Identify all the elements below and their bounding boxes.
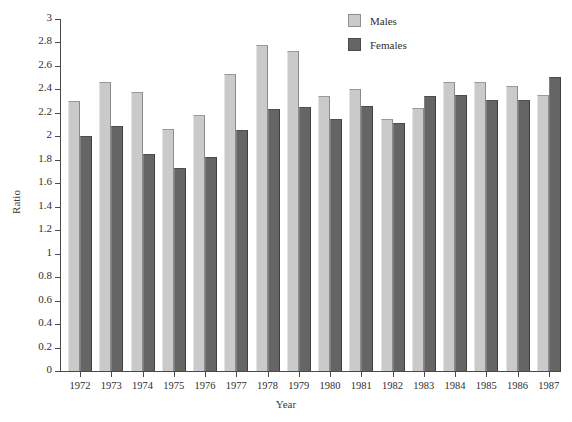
- y-tick-label: 1.4: [38, 199, 52, 211]
- x-tick: [268, 371, 269, 377]
- y-tick: 2.4: [55, 89, 60, 90]
- bar-males-1981: [349, 89, 361, 371]
- x-tick: [80, 371, 81, 377]
- y-tick: 2.8: [55, 42, 60, 43]
- bar-females-1983: [424, 96, 436, 371]
- bar-males-1972: [68, 101, 80, 371]
- bar-females-1976: [205, 157, 217, 371]
- legend-label-females: Females: [370, 39, 407, 51]
- y-tick: 0.2: [55, 348, 60, 349]
- bar-males-1978: [256, 45, 268, 371]
- bar-males-1987: [537, 95, 549, 371]
- bar-males-1986: [506, 86, 518, 371]
- bar-females-1987: [549, 77, 561, 372]
- legend-swatch-females-icon: [348, 38, 361, 51]
- bar-males-1980: [318, 96, 330, 371]
- bar-females-1979: [299, 107, 311, 371]
- bar-males-1976: [193, 115, 205, 371]
- y-axis-line: [60, 19, 61, 372]
- bar-males-1979: [287, 51, 299, 371]
- y-tick: 2.6: [55, 66, 60, 67]
- y-tick: 1: [55, 254, 60, 255]
- legend-swatch-males-icon: [348, 14, 361, 27]
- y-tick: 1.6: [55, 183, 60, 184]
- x-axis-label: Year: [0, 398, 572, 410]
- y-tick-label: 1.2: [38, 222, 52, 234]
- x-tick: [518, 371, 519, 377]
- y-tick: 0.8: [55, 277, 60, 278]
- x-tick: [424, 371, 425, 377]
- x-tick: [393, 371, 394, 377]
- bar-males-1983: [412, 108, 424, 371]
- bar-females-1981: [361, 106, 373, 371]
- chart-legend: Males Females: [348, 14, 407, 62]
- x-tick: [143, 371, 144, 377]
- y-tick: 1.2: [55, 230, 60, 231]
- bar-chart: Ratio 00.20.40.60.811.21.41.61.822.22.42…: [0, 0, 572, 422]
- plot-area: 00.20.40.60.811.21.41.61.822.22.42.62.83…: [60, 19, 560, 371]
- x-tick: [549, 371, 550, 377]
- y-tick: 0: [55, 371, 60, 372]
- y-tick: 1.4: [55, 207, 60, 208]
- y-tick-label: 0.6: [38, 293, 52, 305]
- bar-females-1975: [174, 168, 186, 371]
- bar-males-1973: [99, 82, 111, 371]
- x-tick: [455, 371, 456, 377]
- y-tick: 1.8: [55, 160, 60, 161]
- x-tick-label: 1987: [529, 380, 569, 391]
- bar-females-1982: [393, 123, 405, 371]
- y-tick-label: 2.2: [38, 105, 52, 117]
- y-tick-label: 0.8: [38, 269, 52, 281]
- y-tick: 2.2: [55, 113, 60, 114]
- bar-females-1974: [143, 154, 155, 371]
- y-tick: 0.4: [55, 324, 60, 325]
- legend-label-males: Males: [370, 15, 397, 27]
- y-tick-label: 3: [47, 11, 53, 23]
- bar-males-1985: [474, 82, 486, 371]
- y-tick: 2: [55, 136, 60, 137]
- y-axis-label: Ratio: [10, 172, 22, 232]
- x-tick: [486, 371, 487, 377]
- y-tick-label: 0.2: [38, 340, 52, 352]
- y-tick-label: 0: [47, 363, 53, 375]
- y-tick-label: 1.8: [38, 152, 52, 164]
- bar-females-1972: [80, 136, 92, 371]
- bar-females-1978: [268, 109, 280, 371]
- bar-males-1984: [443, 82, 455, 371]
- y-tick-label: 2.4: [38, 81, 52, 93]
- y-tick-label: 2.6: [38, 58, 52, 70]
- bar-males-1974: [131, 92, 143, 371]
- bar-females-1980: [330, 119, 342, 371]
- bar-females-1985: [486, 100, 498, 371]
- bar-males-1975: [162, 129, 174, 371]
- y-tick: 0.6: [55, 301, 60, 302]
- y-tick-label: 2.8: [38, 34, 52, 46]
- y-tick-label: 2: [47, 128, 53, 140]
- bar-females-1977: [236, 130, 248, 371]
- x-tick: [205, 371, 206, 377]
- x-tick: [174, 371, 175, 377]
- x-tick: [330, 371, 331, 377]
- legend-item-males: Males: [348, 14, 407, 27]
- y-tick-label: 1: [47, 246, 53, 258]
- bar-females-1986: [518, 100, 530, 371]
- x-tick: [236, 371, 237, 377]
- bar-females-1984: [455, 95, 467, 371]
- y-tick-label: 1.6: [38, 175, 52, 187]
- x-tick: [361, 371, 362, 377]
- x-tick: [299, 371, 300, 377]
- y-tick: 3: [55, 19, 60, 20]
- bar-males-1982: [381, 119, 393, 371]
- y-tick-label: 0.4: [38, 316, 52, 328]
- bar-males-1977: [224, 74, 236, 371]
- bar-females-1973: [111, 126, 123, 371]
- x-tick: [111, 371, 112, 377]
- legend-item-females: Females: [348, 38, 407, 51]
